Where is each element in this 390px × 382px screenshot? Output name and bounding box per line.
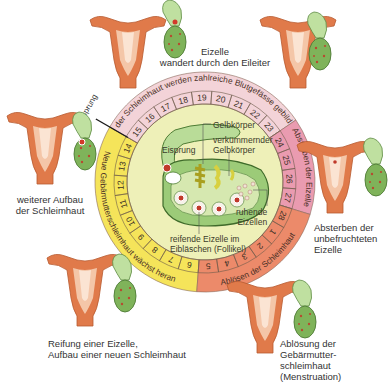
uterus-bottom-left	[47, 254, 123, 326]
caption-bottom-left: Reifung einer Eizelle, Aufbau einer neue…	[48, 338, 186, 360]
ovary-bottom-right	[293, 280, 316, 338]
day-19: 19	[197, 92, 207, 102]
caption-top: Eizelle wandert durch den Eileiter	[150, 46, 280, 68]
label-ruhende-eizellen: ruhende Eizellen	[236, 208, 267, 227]
caption-right: Absterben der unbefruchteten Eizelle	[314, 222, 377, 255]
caption-bottom-right: Ablösung der Gebärmutter- schleimhaut (M…	[280, 338, 390, 382]
label-gelbkoerper: Gelbkörper	[213, 121, 255, 131]
label-eisprung: Eisprung	[162, 146, 196, 156]
label-reifende-eizelle: reifende Eizelle im Eibläschen (Follikel…	[170, 235, 246, 254]
caption-left: weiterer Aufbau der Schleimhaut	[14, 194, 86, 216]
day-12: 12	[115, 180, 125, 190]
ovary-right	[364, 138, 387, 196]
uterus-left	[7, 112, 83, 184]
day-5: 5	[205, 261, 210, 271]
label-verkuemmernder-gelbkoerper: verkümmernder Gelbkörper	[213, 136, 273, 155]
day-26: 26	[284, 174, 294, 184]
